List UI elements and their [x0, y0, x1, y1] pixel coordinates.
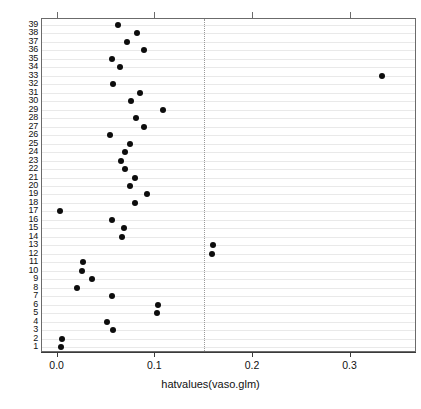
gridline [42, 313, 415, 314]
gridline [42, 178, 415, 179]
gridline [42, 118, 415, 119]
gridline [42, 288, 415, 289]
data-point [124, 39, 130, 45]
x-axis-tick [57, 352, 58, 357]
data-point [58, 344, 64, 350]
data-point [132, 200, 138, 206]
gridline [42, 169, 415, 170]
data-point [57, 208, 63, 214]
gridline [42, 127, 415, 128]
gridline [42, 203, 415, 204]
data-point [89, 276, 95, 282]
plot-canvas: 3938373635343332313029282726252423222120… [0, 0, 421, 409]
gridline [42, 322, 415, 323]
gridline [42, 84, 415, 85]
gridline [42, 305, 415, 306]
gridline [42, 25, 415, 26]
data-point [74, 285, 80, 291]
data-point [109, 293, 115, 299]
data-point [109, 217, 115, 223]
x-axis-tick-label: 0.1 [134, 359, 174, 371]
x-axis-tick [252, 352, 253, 357]
data-point [379, 73, 385, 79]
data-point [107, 132, 113, 138]
cutoff-reference-line [204, 19, 205, 351]
data-point [79, 268, 85, 274]
x-axis-tick-label: 0.0 [37, 359, 77, 371]
gridline [42, 152, 415, 153]
data-point [115, 22, 121, 28]
data-point [128, 98, 134, 104]
gridline [42, 144, 415, 145]
gridline [42, 279, 415, 280]
data-point [122, 166, 128, 172]
gridline [42, 161, 415, 162]
x-axis: 0.00.10.20.3 [0, 352, 421, 372]
data-point [209, 251, 215, 257]
gridline [42, 262, 415, 263]
y-axis-tick-label: 1 [4, 342, 38, 351]
data-point [210, 242, 216, 248]
gridline [42, 76, 415, 77]
data-point [160, 107, 166, 113]
gridline [42, 186, 415, 187]
gridline [42, 237, 415, 238]
gridline [42, 42, 415, 43]
gridline [42, 110, 415, 111]
gridline [42, 220, 415, 221]
gridline [42, 271, 415, 272]
gridline [42, 50, 415, 51]
data-point [127, 183, 133, 189]
data-point [141, 47, 147, 53]
data-point [117, 64, 123, 70]
gridline [42, 33, 415, 34]
data-point [59, 336, 65, 342]
y-axis: 3938373635343332313029282726252423222120… [0, 0, 38, 409]
gridline [42, 67, 415, 68]
top-axis-tick [350, 12, 351, 18]
gridline [42, 228, 415, 229]
data-point [122, 149, 128, 155]
data-point [134, 30, 140, 36]
data-point [144, 191, 150, 197]
x-axis-tick [350, 352, 351, 357]
gridline [42, 101, 415, 102]
data-point [80, 259, 86, 265]
data-point [109, 56, 115, 62]
x-axis-tick-label: 0.3 [330, 359, 370, 371]
gridline [42, 59, 415, 60]
data-point [141, 124, 147, 130]
data-point [155, 302, 161, 308]
data-point [119, 234, 125, 240]
top-axis-tick [154, 12, 155, 18]
data-point [110, 81, 116, 87]
x-axis-tick-label: 0.2 [232, 359, 272, 371]
plot-area [41, 18, 416, 352]
data-point [121, 225, 127, 231]
gridline [42, 339, 415, 340]
top-axis-tick [57, 12, 58, 18]
gridline [42, 194, 415, 195]
gridline [42, 296, 415, 297]
data-point [110, 327, 116, 333]
gridline [42, 211, 415, 212]
gridline [42, 254, 415, 255]
top-axis-ticks [41, 18, 416, 19]
data-point [118, 158, 124, 164]
data-point [154, 310, 160, 316]
gridline [42, 330, 415, 331]
gridline [42, 347, 415, 348]
x-axis-title: hatvalues(vaso.glm) [0, 378, 421, 390]
data-point [104, 319, 110, 325]
gridline [42, 135, 415, 136]
data-point [132, 175, 138, 181]
x-axis-tick [154, 352, 155, 357]
gridline [42, 245, 415, 246]
gridline [42, 93, 415, 94]
top-axis-tick [252, 12, 253, 18]
data-point [127, 141, 133, 147]
data-point [133, 115, 139, 121]
data-point [137, 90, 143, 96]
x-axis-line [41, 352, 416, 353]
